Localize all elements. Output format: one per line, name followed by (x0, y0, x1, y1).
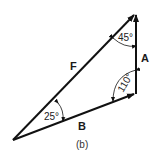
angle-label-25: 25° (44, 111, 59, 122)
vector-a-label: A (141, 52, 149, 64)
vector-triangle-diagram: F A B 45° 110° 25° (b) (0, 0, 155, 159)
angle-label-45: 45° (118, 32, 133, 43)
angle-label-110: 110° (115, 71, 135, 94)
vector-b-label: B (78, 120, 86, 132)
vector-f-label: F (70, 60, 77, 72)
vector-b-line (13, 94, 134, 140)
figure-caption: (b) (76, 139, 88, 150)
vector-f-line (13, 15, 134, 140)
